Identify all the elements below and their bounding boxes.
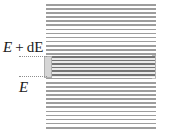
label-de-differential: dE [27,39,44,55]
energy-interval-band [46,56,156,77]
label-e-plus-de: E + dE [3,40,43,55]
leader-line-upper [19,56,47,57]
interval-thickness-box [44,56,52,78]
leader-line-lower [19,76,47,77]
label-plus-operator: + [12,39,26,55]
energy-level-diagram: E + dE E [0,0,169,137]
label-e: E [19,80,28,95]
label-e-plus-de-symbol: E [3,39,12,55]
interval-bracket [155,55,156,79]
interval-bracket-bottom-cap [152,78,156,79]
